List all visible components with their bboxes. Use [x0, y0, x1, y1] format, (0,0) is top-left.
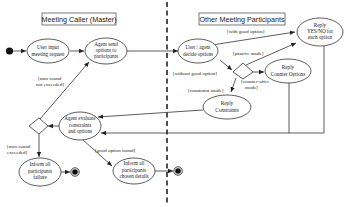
node-decide-options: User / agent decide options	[178, 39, 218, 63]
edge-yesno-to-evaluate	[289, 45, 324, 133]
svg-text:participants: participants	[122, 167, 146, 173]
guard-with-good-option: [with good option]	[227, 29, 265, 34]
lane-title-master: Meeting Caller (Master)	[41, 13, 116, 25]
node-user-input: User input meeting request	[27, 39, 69, 63]
svg-text:each option: each option	[308, 34, 332, 40]
svg-text:and options: and options	[68, 128, 92, 134]
activity-diagram: Meeting Caller (Master) Other Meeting Pa…	[0, 0, 346, 207]
end-node-failure	[71, 168, 79, 176]
edge-constraint-mode	[231, 78, 236, 92]
guard-counter-offer-mode-1: [counter-offer	[241, 79, 269, 84]
svg-text:Inform all: Inform all	[124, 160, 145, 166]
lane-title-participants: Other Meeting Participants	[199, 13, 285, 25]
node-agent-evaluate: Agent evaluate constraints and options	[59, 112, 101, 140]
svg-text:Reply: Reply	[221, 100, 234, 106]
node-agent-send: Agent send options to participants	[85, 38, 127, 64]
node-reply-counter-options: Reply Counter Options	[265, 59, 311, 83]
decision-mode-diamond	[233, 63, 253, 79]
end-node-success	[174, 167, 182, 175]
svg-text:chosen details: chosen details	[119, 173, 148, 179]
svg-text:decide options: decide options	[183, 51, 213, 57]
svg-text:Counter Options: Counter Options	[271, 71, 305, 77]
svg-text:participants: participants	[28, 168, 52, 174]
svg-text:Meeting Caller (Master): Meeting Caller (Master)	[41, 15, 116, 24]
svg-text:participants: participants	[94, 53, 118, 59]
svg-text:Inform all: Inform all	[30, 161, 51, 167]
decision-max-round-diamond	[29, 118, 48, 134]
start-node	[6, 47, 13, 54]
svg-text:Constraints: Constraints	[215, 107, 239, 113]
edge-constraints-to-evaluate	[98, 110, 203, 117]
node-reply-constraints: Reply Constraints	[203, 95, 251, 119]
guard-max-not-exceeded-2: not exceeded]	[36, 82, 64, 87]
guard-without-good-option: [without good option]	[173, 71, 217, 76]
node-reply-yes-no: Reply YES/NO for each option	[297, 18, 343, 46]
svg-text:Agent evaluate: Agent evaluate	[64, 115, 96, 121]
guard-max-exceeded-1: [max round	[7, 144, 31, 149]
svg-text:User / agent: User / agent	[185, 44, 211, 50]
guard-constraint-mode: [constraint mode]	[188, 88, 224, 93]
guard-counter-offer-mode-2: mode]	[245, 85, 258, 90]
svg-text:Other Meeting Participants: Other Meeting Participants	[199, 15, 284, 24]
edge-without-good-option	[220, 60, 232, 70]
guard-max-not-exceeded-1: [max round	[38, 76, 62, 81]
svg-text:constraints: constraints	[69, 122, 91, 128]
svg-text:Reply: Reply	[282, 64, 295, 70]
edge-max-round-not-exceeded	[40, 62, 89, 119]
guard-good-option-found: [good option found]	[95, 148, 136, 153]
svg-text:failure: failure	[33, 174, 47, 180]
guard-max-exceeded-2: exceeded]	[7, 150, 28, 155]
guard-passive-mode: [passive mode]	[233, 51, 264, 56]
node-inform-chosen: Inform all participants chosen details	[113, 158, 155, 184]
svg-text:User input: User input	[37, 44, 59, 50]
svg-text:meeting request: meeting request	[32, 51, 66, 57]
node-inform-failure: Inform all participants failure	[19, 158, 61, 186]
